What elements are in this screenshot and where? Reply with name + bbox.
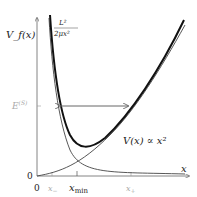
origin-y-label: 0 [27, 171, 33, 181]
x-min-label: xmin [69, 182, 89, 195]
energy-label: E(S) [11, 99, 28, 111]
centrifugal-numerator: L² [58, 19, 67, 27]
x-minus-label: x− [48, 184, 58, 194]
potential-label: V(x) ∝ x² [123, 135, 166, 146]
effective-potential-curve [50, 15, 184, 147]
x-axis-label: x [181, 163, 187, 174]
y-axis-label: V_f(x) [6, 29, 35, 41]
origin-x-label: 0 [34, 183, 40, 193]
centrifugal-denominator: 2μx² [53, 30, 70, 38]
centrifugal-curve [49, 18, 185, 174]
x-plus-label: x+ [126, 184, 136, 194]
effective-potential-diagram: V_f(x) L² 2μx² E(S) V(x) ∝ x² 0 0 x x− x… [0, 0, 197, 197]
